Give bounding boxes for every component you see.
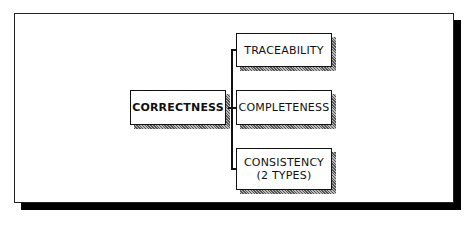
node-label: CONSISTENCY [244, 156, 324, 169]
node-label: TRACEABILITY [244, 44, 323, 57]
node-label: COMPLETENESS [239, 101, 330, 114]
connector-trunk [231, 49, 233, 169]
node-correctness: CORRECTNESS [130, 90, 226, 125]
node-sublabel: (2 TYPES) [257, 169, 312, 182]
node-completeness: COMPLETENESS [236, 90, 332, 125]
node-consistency: CONSISTENCY (2 TYPES) [236, 148, 332, 190]
node-label: CORRECTNESS [132, 101, 224, 114]
node-traceability: TRACEABILITY [236, 33, 332, 67]
